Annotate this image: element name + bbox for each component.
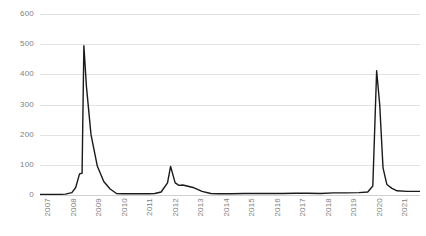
line-chart: 0100200300400500600 20072008200920102011… (0, 0, 426, 236)
x-tick-label-2020: 2020 (376, 198, 384, 217)
x-tick-label-2010: 2010 (121, 198, 129, 217)
x-tick-label-2008: 2008 (70, 198, 78, 217)
x-tick-label-2018: 2018 (325, 198, 333, 217)
y-tick-label-500: 500 (20, 40, 34, 48)
series-polyline-1 (40, 46, 420, 195)
x-tick-label-2007: 2007 (44, 198, 52, 217)
x-tick-label-2014: 2014 (223, 198, 231, 217)
x-tick-label-2016: 2016 (274, 198, 282, 217)
y-tick-label-600: 600 (20, 10, 34, 18)
x-axis: 2007200820092010201120122013201420152016… (40, 196, 426, 236)
y-axis: 0100200300400500600 (0, 0, 40, 195)
y-tick-label-300: 300 (20, 101, 34, 109)
x-tick-label-2021: 2021 (401, 198, 409, 217)
x-tick-label-2013: 2013 (197, 198, 205, 217)
x-tick-label-2009: 2009 (95, 198, 103, 217)
x-tick-label-2015: 2015 (248, 198, 256, 217)
y-tick-label-200: 200 (20, 131, 34, 139)
y-tick-label-100: 100 (20, 161, 34, 169)
series-line (40, 14, 420, 195)
x-tick-label-2017: 2017 (299, 198, 307, 217)
y-tick-label-0: 0 (29, 191, 34, 199)
plot-area (40, 14, 420, 195)
y-tick-label-400: 400 (20, 70, 34, 78)
x-tick-label-2011: 2011 (146, 198, 154, 216)
x-tick-label-2019: 2019 (350, 198, 358, 217)
x-tick-label-2012: 2012 (172, 198, 180, 217)
